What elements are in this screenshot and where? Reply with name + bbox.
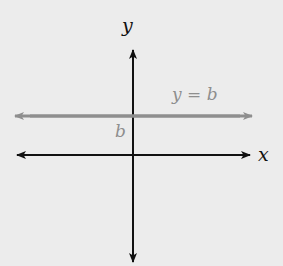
equation-label: y = b — [171, 84, 218, 104]
intercept-label: b — [115, 121, 126, 141]
y-axis-label: y — [121, 14, 133, 36]
coordinate-plane: y x y = b b — [0, 0, 283, 266]
x-axis-label: x — [258, 143, 269, 165]
